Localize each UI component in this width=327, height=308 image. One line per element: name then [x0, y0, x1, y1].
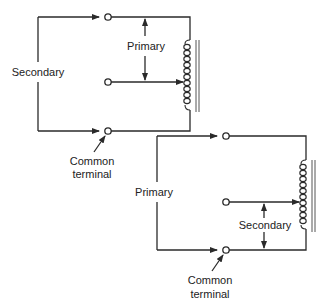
bottom-terminal-upper — [223, 133, 229, 139]
bottom-terminal-tap — [223, 199, 229, 205]
bottom-terminal-common — [223, 247, 229, 253]
top-wire-upper — [111, 17, 190, 40]
bottom-common-arrow — [212, 255, 223, 271]
top-secondary-label: Secondary — [12, 66, 65, 78]
bottom-common-label-line1: Common — [188, 274, 233, 286]
top-diagram: Secondary Primary — [12, 14, 199, 180]
top-wire-lower — [111, 110, 190, 131]
bottom-primary-label: Primary — [135, 186, 173, 198]
top-terminal-common — [105, 128, 111, 134]
top-coil-icon — [184, 40, 190, 110]
bottom-secondary-label: Secondary — [239, 219, 292, 231]
top-common-label-line2: terminal — [72, 168, 111, 180]
bottom-common-label-line2: terminal — [190, 288, 229, 300]
top-terminal-tap — [105, 79, 111, 85]
top-primary-label: Primary — [127, 40, 165, 52]
autotransformer-diagram: Secondary Primary — [0, 0, 327, 308]
bottom-wire-upper — [229, 136, 306, 160]
top-common-arrow — [94, 136, 105, 152]
bottom-wire-lower — [229, 229, 306, 250]
top-terminal-upper — [105, 14, 111, 20]
bottom-diagram: Primary Secondary — [135, 133, 315, 300]
top-common-label-line1: Common — [70, 155, 115, 167]
bottom-coil-icon — [300, 160, 306, 229]
